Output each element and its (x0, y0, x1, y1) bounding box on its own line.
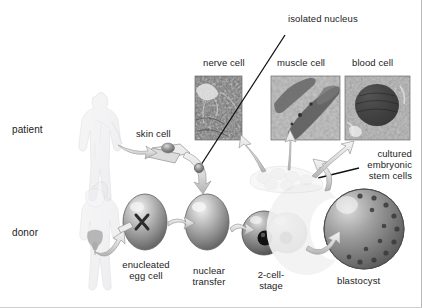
arrow-skin-cell-to-nuclear-transfer (183, 152, 211, 194)
blastocyst-shape (266, 183, 404, 275)
callout-cultured-line3: stem cells (369, 170, 412, 181)
nuclear-transfer-line2: transfer (192, 276, 225, 287)
callout-cultured-line2: embryonic (367, 159, 412, 170)
arrow-stem-cells-to-nerve-cell (239, 135, 266, 172)
enucleated-egg-line1: enucleated (122, 259, 169, 270)
two-cell-line2: stage (259, 280, 283, 291)
row-label-donor: donor (12, 227, 38, 238)
callout-cultured-stem-cells: cultured embryonic stem cells (316, 148, 412, 181)
micrograph-label-blood-cell: blood cell (352, 57, 393, 68)
row-label-patient: patient (12, 124, 43, 135)
stage-label-nuclear-transfer: nuclear transfer (178, 265, 240, 287)
two-cell-line1: 2-cell- (258, 269, 285, 280)
callout-cultured-line1: cultured (377, 148, 412, 159)
stage-label-blastocyst: blastocyst (337, 275, 380, 286)
micrograph-group (195, 76, 410, 140)
stage-label-two-cell-stage: 2-cell- stage (242, 269, 300, 291)
stage-label-enucleated-egg-cell: enucleated egg cell (108, 259, 184, 281)
isolated-nucleus-shape (194, 163, 203, 172)
callout-isolated-nucleus: isolated nucleus (288, 13, 358, 24)
micrograph-label-nerve-cell: nerve cell (203, 57, 245, 68)
micrograph-label-muscle-cell: muscle cell (277, 57, 325, 68)
stage-label-skin-cell: skin cell (136, 128, 171, 139)
diagram-canvas: patient donor isolated nucleus nerve cel… (0, 0, 422, 308)
enucleated-egg-line2: egg cell (129, 270, 163, 281)
nuclear-transfer-line1: nuclear (193, 265, 225, 276)
